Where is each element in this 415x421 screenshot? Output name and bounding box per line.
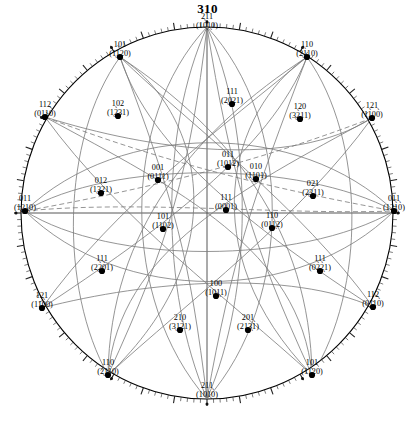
pole-miller-index: 011 bbox=[217, 150, 239, 159]
pole-label-p-12b1: 12̖1(11̖00) bbox=[31, 291, 53, 310]
pole-bravais-index: (101̖0) bbox=[196, 390, 218, 399]
pole-miller-index: 112 bbox=[34, 100, 56, 109]
pole-miller-index: 101 bbox=[301, 358, 323, 367]
pole-miller-index: 21̖0 bbox=[169, 313, 191, 322]
pole-bravais-index: (01̖̖10) bbox=[34, 109, 56, 118]
pole-bravais-index: (11̖20) bbox=[301, 367, 323, 376]
pole-miller-index: 211̖ bbox=[196, 381, 218, 390]
pole-label-p-1b1b1: 1̖1̖1(2̖2̖01) bbox=[91, 254, 113, 273]
pole-bravais-index: (213̖1) bbox=[237, 322, 259, 331]
pole-label-p-21b0: 21̖0(3̖121) bbox=[169, 313, 191, 332]
pole-bravais-index: (10̖1̖0) bbox=[196, 21, 218, 30]
pole-miller-index: 201̖ bbox=[237, 313, 259, 322]
pole-miller-index: 1̖10 bbox=[296, 40, 318, 49]
pole-bravais-index: (2̖021) bbox=[221, 96, 243, 105]
pole-bravais-index: (1̖012) bbox=[217, 159, 239, 168]
pole-bravais-index: (121̖0) bbox=[383, 203, 405, 212]
pole-label-p-001: 001(01̖11) bbox=[147, 163, 168, 182]
pole-miller-index: 100 bbox=[205, 279, 227, 288]
pole-label-p-211: 211̖(101̖0) bbox=[196, 381, 218, 400]
pole-label-p-01b1b: 01̖1̖(121̖0) bbox=[383, 194, 405, 213]
pole-miller-index: 1̖20 bbox=[289, 102, 311, 111]
pole-label-p-011-left: 011(1̖̖21̖0) bbox=[14, 194, 36, 213]
pole-miller-index: 021 bbox=[302, 179, 324, 188]
pole-miller-index: 1̖21̖ bbox=[361, 101, 383, 110]
pole-miller-index: 2̖11 bbox=[196, 12, 218, 21]
pole-label-p-111-ctr: 111(0001) bbox=[215, 193, 237, 212]
pole-miller-index: 1̖1̖1 bbox=[309, 254, 331, 263]
pole-bravais-index: (1̖1̖01) bbox=[245, 171, 267, 180]
pole-label-p-110: 110(011̖2) bbox=[261, 211, 283, 230]
pole-bravais-index: (1̖̖21̖0) bbox=[14, 203, 36, 212]
pole-bravais-index: (01̖11) bbox=[147, 172, 168, 181]
pole-miller-index: 111 bbox=[215, 193, 237, 202]
pole-miller-index: 112̖ bbox=[362, 290, 384, 299]
pole-bravais-index: (3̖121) bbox=[169, 322, 191, 331]
pole-bravais-index: (1̖1̖20) bbox=[109, 49, 131, 58]
pole-label-p-111-up: 111(2̖021) bbox=[221, 87, 243, 106]
pole-miller-index: 011 bbox=[14, 194, 36, 203]
pole-bravais-index: (11̖00) bbox=[31, 300, 53, 309]
pole-bravais-index: (2̖3̖11) bbox=[302, 188, 324, 197]
pole-label-p-010: 010(1̖1̖01) bbox=[245, 162, 267, 181]
pole-bravais-index: (101̖1) bbox=[205, 288, 227, 297]
pole-label-p-101-mid: 101(11̖02) bbox=[152, 212, 174, 231]
pole-label-p-1b1b1-r: 1̖1̖1(02̖2̖1) bbox=[309, 254, 331, 273]
pole-label-p-012: 012(1̖321) bbox=[90, 176, 112, 195]
pole-bravais-index: (02̖2̖1) bbox=[309, 263, 331, 272]
pole-bravais-index: (0001) bbox=[215, 202, 237, 211]
pole-label-p-1bar20: 1̖20(3̖211) bbox=[289, 102, 311, 121]
pole-label-p-1bar02: 1̖02(1̖231) bbox=[107, 99, 129, 118]
pole-label-p-101-tl: 101(1̖1̖20) bbox=[109, 40, 131, 59]
pole-bravais-index: (2̖110) bbox=[97, 367, 119, 376]
pole-label-p-112: 112(01̖̖10) bbox=[34, 100, 56, 119]
pole-miller-index: 012 bbox=[90, 176, 112, 185]
pole-miller-index: 111 bbox=[221, 87, 243, 96]
pole-label-p-1bar21bar: 1̖21̖(1̖100) bbox=[361, 101, 383, 120]
great-circle-traces bbox=[21, 27, 394, 399]
pole-label-p-11b0: 11̖0(2̖110) bbox=[97, 358, 119, 377]
pole-label-p-201b: 201̖(213̖1) bbox=[237, 313, 259, 332]
pole-label-p-2bar11: 2̖11(10̖1̖0) bbox=[196, 12, 218, 31]
pole-miller-index: 01̖1̖ bbox=[383, 194, 405, 203]
pole-bravais-index: (011̖2) bbox=[261, 220, 283, 229]
pole-miller-index: 101 bbox=[109, 40, 131, 49]
pole-miller-index: 12̖1 bbox=[31, 291, 53, 300]
pole-label-p-021: 021(2̖3̖11) bbox=[302, 179, 324, 198]
pole-label-p-1bar10: 1̖10(2̖110) bbox=[296, 40, 318, 59]
pole-bravais-index: (1̖321) bbox=[90, 185, 112, 194]
pole-bravais-index: (11̖02) bbox=[152, 221, 174, 230]
pole-miller-index: 1̖02 bbox=[107, 99, 129, 108]
pole-miller-index: 1̖1̖1 bbox=[91, 254, 113, 263]
pole-label-p-112-r: 112̖(01̖10) bbox=[362, 290, 384, 309]
pole-miller-index: 11̖0 bbox=[97, 358, 119, 367]
pole-miller-index: 101 bbox=[152, 212, 174, 221]
pole-bravais-index: (3̖211) bbox=[289, 111, 311, 120]
pole-bravais-index: (1̖231) bbox=[107, 108, 129, 117]
pole-miller-index: 110 bbox=[261, 211, 283, 220]
pole-bravais-index: (2̖110) bbox=[296, 49, 318, 58]
pole-bravais-index: (2̖2̖01) bbox=[91, 263, 113, 272]
stereographic-projection-figure: 310 bbox=[0, 0, 415, 421]
pole-label-p-011: 011(1̖012) bbox=[217, 150, 239, 169]
projection-canvas bbox=[0, 0, 415, 421]
pole-label-p-100: 100(101̖1) bbox=[205, 279, 227, 298]
pole-dots bbox=[22, 54, 397, 378]
pole-label-p-101-br: 101(11̖20) bbox=[301, 358, 323, 377]
pole-miller-index: 001 bbox=[147, 163, 168, 172]
pole-miller-index: 010 bbox=[245, 162, 267, 171]
pole-bravais-index: (1̖100) bbox=[361, 110, 383, 119]
pole-bravais-index: (01̖10) bbox=[362, 299, 384, 308]
